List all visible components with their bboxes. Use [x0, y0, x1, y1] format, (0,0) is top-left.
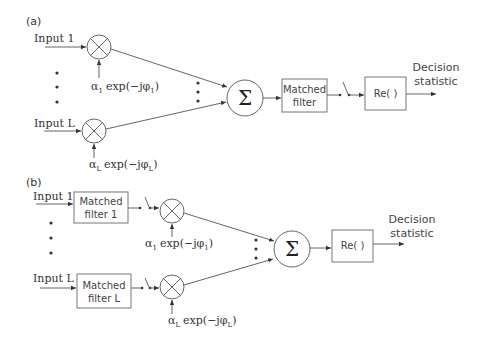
svg-text:Matched: Matched: [79, 196, 122, 207]
panel-b: (b) Input 1 Matched filter 1 α1exp(−jφ1): [26, 176, 435, 329]
matched-filter-block: Matched filter: [282, 79, 327, 112]
weight-1-label: α1exp(−jφ1): [145, 237, 213, 252]
multiplier-L-icon: [160, 275, 184, 299]
panel-b-label: (b): [26, 176, 42, 189]
real-part-block: Re( ): [365, 77, 406, 110]
weight-L-label: αLexp(−jφL): [168, 314, 236, 329]
weight-1-label: α1exp(−jφ1): [91, 80, 159, 95]
output-label-line2: statistic: [390, 227, 433, 240]
real-part-block: Re( ): [332, 230, 373, 262]
branch-L-to-sum: [106, 102, 226, 129]
input-1-label: Input 1: [33, 190, 73, 203]
svg-text:filter 1: filter 1: [85, 209, 118, 220]
ellipsis-inputs: [55, 71, 58, 103]
ellipsis-inputs: [49, 221, 52, 254]
ellipsis-branches: [254, 238, 257, 259]
panel-a: (a) Input 1 α1exp(−jφ1) Input L αL: [26, 15, 459, 173]
input-L-label: Input L: [34, 117, 75, 130]
receiver-block-diagram: (a) Input 1 α1exp(−jφ1) Input L αL: [0, 0, 480, 344]
input-L-label: Input L: [33, 272, 74, 285]
ellipsis-branches: [196, 81, 199, 102]
multiplier-1-icon: [87, 35, 111, 59]
output-label-line1: Decision: [413, 61, 460, 74]
svg-text:filter: filter: [293, 97, 317, 108]
matched-filter-1-block: Matched filter 1: [74, 192, 128, 223]
summer-icon: Σ: [274, 231, 310, 267]
branch-L-to-sum: [184, 259, 273, 285]
sigma-symbol: Σ: [238, 86, 252, 110]
multiplier-L-icon: [82, 119, 106, 143]
sampler-switch-icon: [327, 82, 364, 96]
svg-text:Matched: Matched: [283, 84, 326, 95]
weight-L-label: αLexp(−jφL): [89, 158, 157, 173]
summer-icon: Σ: [227, 80, 263, 116]
panel-a-label: (a): [26, 15, 41, 28]
svg-text:Re( ): Re( ): [341, 240, 365, 251]
sampler-switch-L-icon: [131, 278, 159, 289]
sigma-symbol: Σ: [285, 237, 299, 261]
output-label-line1: Decision: [389, 213, 436, 226]
sampler-switch-1-icon: [128, 197, 159, 209]
svg-text:Re( ): Re( ): [374, 88, 398, 99]
svg-text:Matched: Matched: [82, 280, 125, 291]
multiplier-1-icon: [160, 199, 184, 223]
output-label-line2: statistic: [414, 75, 457, 88]
matched-filter-L-block: Matched filter L: [77, 274, 131, 308]
input-1-label: Input 1: [34, 32, 74, 45]
svg-text:filter L: filter L: [88, 293, 120, 304]
